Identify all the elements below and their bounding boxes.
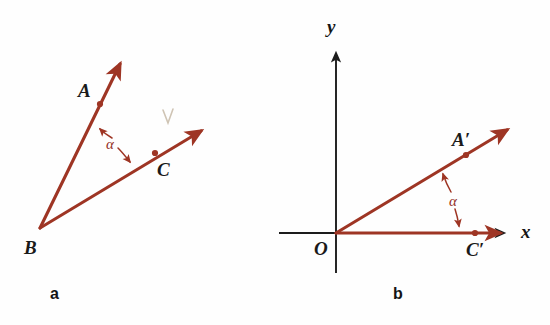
- point-marker-a-prime: [463, 152, 469, 158]
- label-vertex-b: B: [23, 237, 37, 258]
- smudge-mark-icon: [163, 109, 173, 123]
- point-marker-a: [97, 101, 103, 107]
- panel-a: A C B α a: [23, 64, 201, 302]
- caption-panel-a: a: [50, 285, 59, 302]
- label-y-axis: y: [325, 16, 336, 37]
- label-angle-alpha-a: α: [106, 136, 115, 152]
- label-point-a-prime: A′: [451, 129, 470, 150]
- label-point-a: A: [77, 80, 91, 101]
- ray-oa-prime: [336, 130, 507, 233]
- label-origin-o: O: [314, 238, 328, 259]
- panel-b: A′ C′ O x y α b: [279, 16, 531, 302]
- angle-arc-arrow-lower-b: [455, 209, 459, 226]
- point-marker-c: [152, 150, 158, 156]
- caption-panel-b: b: [393, 285, 403, 302]
- figure-root: A C B α a A′ C′ O x: [0, 0, 550, 325]
- figure-canvas: A C B α a A′ C′ O x: [0, 0, 550, 325]
- angle-arc-arrow-lower-a: [118, 148, 130, 162]
- label-point-c-prime: C′: [466, 239, 484, 260]
- point-marker-c-prime: [472, 230, 478, 236]
- angle-arc-arrow-upper-b: [443, 174, 451, 192]
- label-point-c: C: [157, 159, 170, 180]
- label-x-axis: x: [520, 221, 531, 242]
- label-angle-alpha-b: α: [449, 193, 458, 209]
